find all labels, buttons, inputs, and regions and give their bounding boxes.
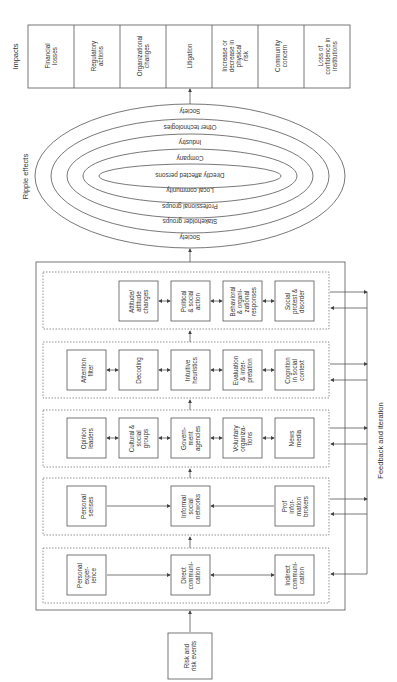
box-attention-filter: Attention filter <box>67 351 106 391</box>
ring-other-technologies: Other technologies <box>140 123 240 132</box>
impact-financial-losses: Financial losses <box>28 25 74 87</box>
ring-professional-groups: Professional groups <box>140 202 240 211</box>
box-personal-experience: Personal exper- ience <box>67 556 106 596</box>
box-government-agencies: Govern- ment agencies <box>171 419 210 459</box>
box-behavioral-responses: Behavioral & organi- zational responses <box>223 282 262 322</box>
impact-loss-of-confidence: Loss of confidence in institutions <box>304 25 350 87</box>
ring-industry: Industry <box>140 138 240 147</box>
feedback-iteration-label: Feedback and iteration <box>376 396 385 486</box>
box-attitude-changes: Attitude/ attitude changes <box>119 282 158 322</box>
box-cultural-social-groups: Cultural & social groups <box>119 419 158 459</box>
ring-local-community: Local community <box>140 186 240 195</box>
box-social-protest: Social protest & disorder <box>275 282 314 322</box>
box-personal-senses: Personal senses <box>67 487 106 527</box>
box-prof-information-brokers: Prof infor- mation brokers <box>275 487 314 527</box>
box-intuitive-heuristics: Intuitive heuristics <box>171 351 210 391</box>
box-evaluation-interpretation: Evaluation & inter- pretation <box>223 351 262 391</box>
box-cognition-social-context: Cognition in social context <box>275 351 314 391</box>
box-political-social-action: Political & social action <box>171 282 210 322</box>
impact-litigation: Litigation <box>166 25 212 87</box>
impact-organizational-changes: Organizational changes <box>120 25 166 87</box>
box-decoding: Decoding <box>119 351 158 391</box>
impacts-label: Impacts <box>11 42 20 72</box>
box-informal-social-networks: Informal social networks <box>171 487 210 527</box>
impact-physical-risk: Increase or decrease in physical risk <box>212 25 258 87</box>
impact-community-concern: Community concern <box>258 25 304 87</box>
box-indirect-communication: Indirect communi- cation <box>275 556 314 596</box>
ring-company: Company <box>140 154 240 163</box>
impact-regulatory-actions: Regulatory actions <box>74 25 120 87</box>
ring-society-bottom: Society <box>140 233 240 242</box>
box-voluntary-organizations: Voluntary organiza- tions <box>223 419 262 459</box>
ring-society-top: Society <box>140 107 240 116</box>
ring-stakeholder-groups: Stakeholder groups <box>140 217 240 226</box>
ring-directly-affected: Directly affected persons <box>120 171 260 180</box>
box-opinion-leaders: Opinion leaders <box>67 419 106 459</box>
ripple-effects-label: Ripple effects <box>21 147 30 207</box>
box-news-media: News media <box>275 419 314 459</box>
risk-events-box: Risk and risk events <box>168 633 212 679</box>
box-direct-communication: Direct communi- cation <box>171 556 210 596</box>
